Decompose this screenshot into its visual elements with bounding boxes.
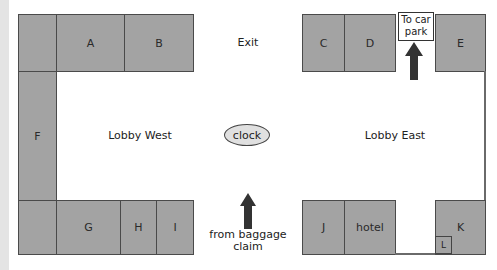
arrow-up-icon-baggage xyxy=(239,193,257,229)
unit-l-label: L xyxy=(441,240,446,250)
south-wall-line xyxy=(395,253,436,255)
unit-f-label: F xyxy=(34,130,40,143)
unit-b-label: B xyxy=(155,37,163,50)
unit-j-label: J xyxy=(322,221,325,234)
unit-a: A xyxy=(56,14,125,72)
unit-c-label: C xyxy=(320,37,328,50)
unit-g: G xyxy=(56,200,121,255)
car-park-sign: To car park xyxy=(398,12,434,41)
unit-hotel-label: hotel xyxy=(356,221,384,234)
page-margin-strip xyxy=(0,0,9,270)
baggage-claim-label: from baggage claim xyxy=(203,229,293,253)
unit-a-label: A xyxy=(87,37,95,50)
unit-e: E xyxy=(435,14,486,72)
arrow-up-icon-car-park xyxy=(404,42,424,80)
exit-label: Exit xyxy=(228,36,268,49)
unit-c: C xyxy=(302,14,345,72)
unit-i: I xyxy=(156,200,194,255)
baggage-line-2: claim xyxy=(203,241,293,253)
unit-j: J xyxy=(302,200,345,255)
clock-label: clock xyxy=(233,129,261,142)
unit-i-label: I xyxy=(173,221,176,234)
unit-b: B xyxy=(124,14,194,72)
unit-h: H xyxy=(120,200,157,255)
unit-d: D xyxy=(344,14,396,72)
unit-l: L xyxy=(435,236,452,254)
unit-corner-top-left xyxy=(18,14,57,72)
unit-f: F xyxy=(18,71,57,201)
lobby-east-label: Lobby East xyxy=(350,129,440,142)
unit-d-label: D xyxy=(366,37,374,50)
east-wall-line xyxy=(484,71,486,201)
lobby-west-label: Lobby West xyxy=(95,129,185,142)
car-park-line-1: To car xyxy=(399,14,433,26)
unit-k-label: K xyxy=(457,221,464,234)
unit-g-label: G xyxy=(84,221,93,234)
unit-hotel: hotel xyxy=(344,200,396,255)
unit-corner-bottom-left xyxy=(18,200,57,255)
clock-landmark: clock xyxy=(224,124,270,146)
unit-e-label: E xyxy=(457,37,464,50)
unit-h-label: H xyxy=(134,221,142,234)
car-park-line-2: park xyxy=(399,26,433,38)
